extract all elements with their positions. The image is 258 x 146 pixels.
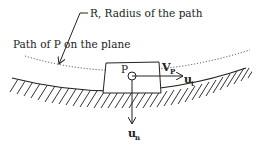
diagram-canvas: R, Radius of the path Path of P on the p… [0, 0, 258, 146]
path-label: Path of P on the plane [13, 38, 130, 50]
normal-unit-subscript: n [135, 133, 140, 142]
radius-label: R, Radius of the path [90, 7, 203, 19]
velocity-subscript: P [170, 67, 176, 76]
point-p-label: P [121, 63, 128, 75]
